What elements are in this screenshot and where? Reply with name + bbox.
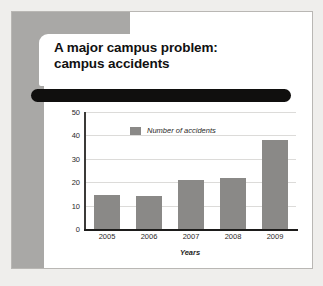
y-tick-label: 30 [72,154,80,163]
slide-title-card: A major campus problem: campus accidents [39,34,312,86]
y-tick-label: 40 [72,131,80,140]
legend-label: Number of accidents [147,126,216,135]
x-tick-label: 2009 [254,232,296,241]
x-tick-label: 2008 [212,232,254,241]
redaction-bar [31,89,291,102]
bar-slot [254,112,296,229]
bar-2009 [262,140,288,229]
y-axis-line [84,112,86,230]
x-axis-line [84,229,298,231]
x-axis-title: Years [84,248,296,257]
presentation-slide: A major campus problem: campus accidents… [11,11,313,269]
bar-slot [86,112,128,229]
y-tick-label: 0 [76,225,80,234]
chart-legend: Number of accidents [130,126,216,135]
bar-2008 [220,178,246,229]
x-axis-tick-labels: 2005 2006 2007 2008 2009 [86,232,296,241]
x-tick-label: 2007 [170,232,212,241]
y-tick-label: 10 [72,201,80,210]
y-tick-label: 20 [72,178,80,187]
legend-swatch-icon [130,127,141,135]
y-tick-label: 50 [72,108,80,117]
slide-title: A major campus problem: campus accidents [54,40,306,73]
bar-2007 [178,180,204,229]
bar-chart: 50 40 30 20 10 0 [56,108,300,266]
bar-2005 [94,195,120,229]
x-tick-label: 2006 [128,232,170,241]
x-tick-label: 2005 [86,232,128,241]
chart-plot-area: 50 40 30 20 10 0 [84,112,296,230]
bar-slot [212,112,254,229]
bar-2006 [136,196,162,229]
